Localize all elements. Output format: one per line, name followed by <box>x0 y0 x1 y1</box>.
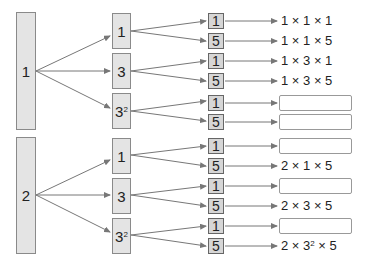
product-text: 1 × 1 × 5 <box>281 33 332 49</box>
leaf-box: 1 <box>208 218 224 234</box>
product-part: 2 × 3 <box>281 238 310 253</box>
leaf-label: 5 <box>212 114 220 130</box>
leaf-label: 1 <box>212 218 220 234</box>
exponent: 2 <box>123 230 127 239</box>
product-text: 1 × 3 × 1 <box>281 53 332 69</box>
leaf-box: 1 <box>208 53 224 69</box>
leaf-box: 5 <box>208 238 224 254</box>
answer-input[interactable] <box>279 114 352 130</box>
leaf-label: 5 <box>212 158 220 174</box>
root-box-2: 2 <box>16 137 36 254</box>
leaf-box: 5 <box>208 158 224 174</box>
factor-label: 3 <box>115 103 123 120</box>
factor-label: 3 <box>117 188 125 205</box>
leaf-label: 1 <box>212 178 220 194</box>
leaf-label: 1 <box>212 13 220 29</box>
root-label: 2 <box>22 187 30 204</box>
answer-input[interactable] <box>279 95 352 111</box>
root-label: 1 <box>22 63 30 80</box>
exponent: 2 <box>123 105 127 114</box>
product-part: × 5 <box>315 238 337 253</box>
leaf-label: 5 <box>212 33 220 49</box>
factor-label: 1 <box>117 23 125 40</box>
product-text: 2 × 1 × 5 <box>281 158 332 174</box>
factor-box: 1 <box>112 138 131 174</box>
leaf-label: 5 <box>212 198 220 214</box>
leaf-box: 1 <box>208 95 224 111</box>
leaf-box: 5 <box>208 198 224 214</box>
root-box-1: 1 <box>16 12 36 130</box>
leaf-label: 5 <box>212 238 220 254</box>
factor-label: 1 <box>117 148 125 165</box>
leaf-box: 1 <box>208 138 224 154</box>
factor-box: 3 <box>112 178 131 214</box>
leaf-box: 1 <box>208 178 224 194</box>
product-text: 1 × 1 × 1 <box>281 13 332 29</box>
exponent: 2 <box>310 239 314 248</box>
leaf-label: 1 <box>212 138 220 154</box>
leaf-label: 1 <box>212 95 220 111</box>
product-text: 2 × 3 × 5 <box>281 198 332 214</box>
leaf-label: 1 <box>212 53 220 69</box>
answer-input[interactable] <box>279 138 352 154</box>
leaf-box: 5 <box>208 73 224 89</box>
factor-label: 3 <box>117 63 125 80</box>
factor-box: 3 <box>112 53 131 89</box>
answer-input[interactable] <box>279 218 352 234</box>
factor-box: 32 <box>112 93 131 129</box>
answer-input[interactable] <box>279 178 352 194</box>
product-text: 2 × 32 × 5 <box>281 238 337 254</box>
product-text: 1 × 3 × 5 <box>281 73 332 89</box>
leaf-box: 1 <box>208 13 224 29</box>
leaf-box: 5 <box>208 33 224 49</box>
leaf-box: 5 <box>208 114 224 130</box>
factor-box: 1 <box>112 13 131 49</box>
factor-box: 32 <box>112 218 131 254</box>
factor-label: 3 <box>115 228 123 245</box>
leaf-label: 5 <box>212 73 220 89</box>
